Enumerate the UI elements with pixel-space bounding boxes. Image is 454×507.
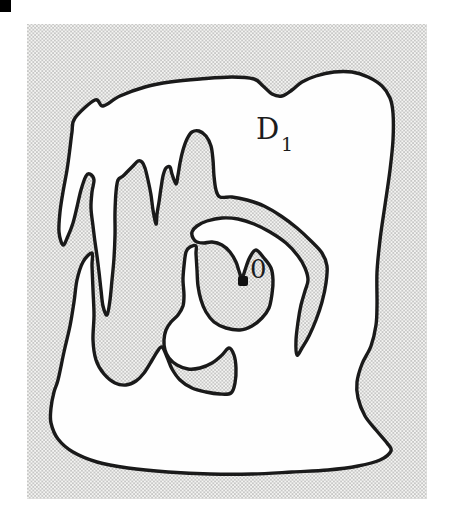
corner-mark bbox=[0, 0, 11, 12]
domain-label: D bbox=[256, 112, 279, 146]
diagram-canvas: D 1 0 bbox=[0, 0, 454, 507]
figure-domain-d1: D 1 0 bbox=[0, 0, 454, 507]
domain-label-subscript: 1 bbox=[281, 133, 293, 155]
origin-point-marker bbox=[238, 276, 248, 286]
origin-label: 0 bbox=[250, 254, 267, 284]
